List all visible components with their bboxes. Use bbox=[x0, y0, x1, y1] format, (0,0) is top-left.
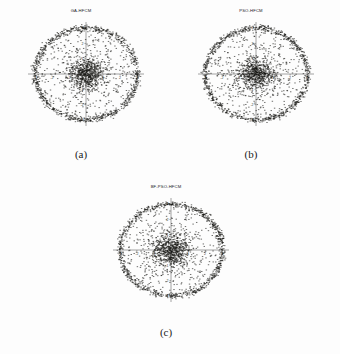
svg-text:-2: -2 bbox=[220, 76, 223, 80]
svg-text:-1: -1 bbox=[80, 88, 83, 92]
panel-caption-a: (a) bbox=[6, 148, 156, 160]
plot-axes-b: -3-2-1123-3-2-1123 bbox=[184, 18, 318, 138]
svg-text:2: 2 bbox=[82, 42, 84, 46]
scatter-canvas-b: -3-2-1123-3-2-1123 bbox=[184, 18, 318, 138]
scatter-panel-c: BF-PSO-HFCM -3-2-1123-3-2-1123 (c) bbox=[91, 180, 241, 352]
plot-axes-c: -3-2-1123-3-2-1123 bbox=[99, 194, 233, 314]
plot-title-b: PSO-HFCM bbox=[176, 8, 326, 13]
scatter-panel-a: GA-HFCM -3-2-1123-3-2-1123 (a) bbox=[6, 4, 156, 174]
figure-container: GA-HFCM -3-2-1123-3-2-1123 (a) PSO-HFCM … bbox=[0, 0, 340, 354]
svg-text:2: 2 bbox=[119, 76, 121, 80]
plot-axes-a: -3-2-1123-3-2-1123 bbox=[14, 18, 148, 138]
svg-text:3: 3 bbox=[252, 26, 254, 30]
svg-text:-2: -2 bbox=[135, 252, 138, 256]
panel-caption-b: (b) bbox=[176, 148, 326, 160]
svg-text:-2: -2 bbox=[165, 279, 168, 283]
svg-text:-2: -2 bbox=[250, 103, 253, 107]
scatter-panel-b: PSO-HFCM -3-2-1123-3-2-1123 (b) bbox=[176, 4, 326, 174]
panel-caption-c: (c) bbox=[91, 326, 241, 338]
scatter-canvas-c: -3-2-1123-3-2-1123 bbox=[99, 194, 233, 314]
plot-title-a: GA-HFCM bbox=[6, 8, 156, 13]
svg-text:2: 2 bbox=[204, 252, 206, 256]
plot-title-c: BF-PSO-HFCM bbox=[91, 184, 241, 189]
scatter-canvas-a: -3-2-1123-3-2-1123 bbox=[14, 18, 148, 138]
svg-text:-2: -2 bbox=[50, 76, 53, 80]
